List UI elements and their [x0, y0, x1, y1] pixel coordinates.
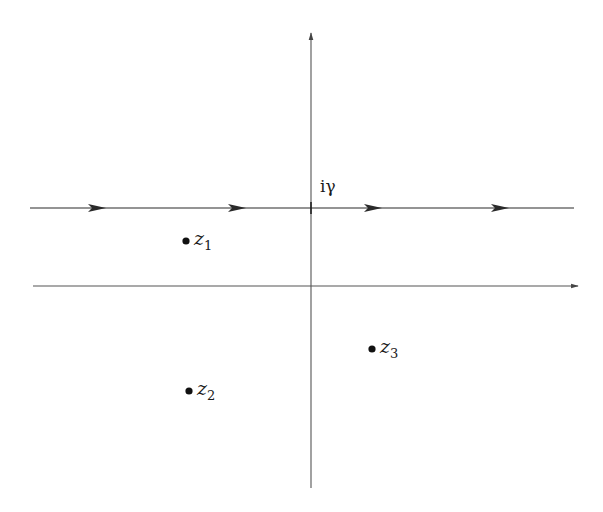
pole-z3: z3 [368, 335, 398, 361]
pole-z2: z2 [185, 377, 215, 403]
pole-label: z1 [193, 227, 212, 253]
pole-label: z2 [196, 377, 215, 403]
poles-group: z1z2z3 [182, 227, 398, 403]
pole-label: z3 [379, 335, 398, 361]
contour-label: iγ [320, 176, 336, 196]
point-marker-icon [368, 345, 375, 352]
point-marker-icon [182, 237, 189, 244]
point-marker-icon [185, 387, 192, 394]
pole-z1: z1 [182, 227, 212, 253]
complex-plane-diagram: iγ z1z2z3 [0, 0, 603, 512]
